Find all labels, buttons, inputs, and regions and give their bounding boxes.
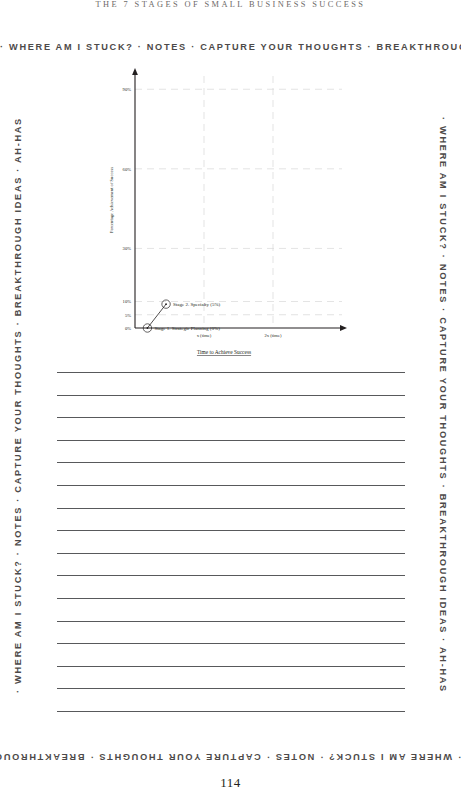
chart-svg: 90%60%30%10%5%0% x (time)2x (time) Stage… [104,66,354,361]
x-tick-label: x (time) [197,333,212,338]
y-tick-label: 0% [125,326,131,331]
data-point-label: Stage 2. Specialty (5%) [173,302,221,307]
y-axis-arrow [132,68,138,75]
writing-line[interactable] [57,462,405,463]
page-number: 114 [0,775,461,791]
x-axis-title: Time to Achieve Success [197,349,251,355]
notebook-page: THE 7 STAGES OF SMALL BUSINESS SUCCESS ·… [0,0,461,809]
writing-line[interactable] [57,575,405,576]
writing-line[interactable] [57,440,405,441]
x-tick-labels: x (time)2x (time) [197,333,282,338]
x-axis-arrow [340,325,347,331]
running-head: THE 7 STAGES OF SMALL BUSINESS SUCCESS [0,0,461,9]
y-tick-label: 90% [123,87,132,92]
y-tick-label: 60% [123,167,132,172]
margin-banner-right: · WHERE AM I STUCK? · NOTES · CAPTURE YO… [438,55,448,755]
writing-line[interactable] [57,666,405,667]
writing-line[interactable] [57,711,405,712]
writing-line[interactable] [57,372,405,373]
writing-line[interactable] [57,395,405,396]
success-chart: 90%60%30%10%5%0% x (time)2x (time) Stage… [104,66,354,361]
writing-line[interactable] [57,688,405,689]
writing-line[interactable] [57,621,405,622]
writing-line[interactable] [57,598,405,599]
writing-line[interactable] [57,485,405,486]
y-tick-label: 30% [123,246,132,251]
writing-line[interactable] [57,530,405,531]
writing-line[interactable] [57,508,405,509]
data-point-center [165,303,167,305]
y-tick-labels: 90%60%30%10%5%0% [123,87,132,331]
margin-banner-top: · WHERE AM I STUCK? · NOTES · CAPTURE YO… [0,42,461,52]
data-point-label: Stage 1. Strategic Planning (0%) [154,326,220,331]
writing-line[interactable] [57,643,405,644]
margin-banner-bottom: · WHERE AM I STUCK? · NOTES · CAPTURE YO… [0,752,461,762]
x-tick-label: 2x (time) [265,333,282,338]
y-axis-title: Percentage Achievement of Success [109,167,114,233]
y-tick-label: 5% [125,313,131,318]
ruled-writing-area[interactable] [57,372,405,734]
writing-line[interactable] [57,417,405,418]
data-point-center [147,327,149,329]
writing-line[interactable] [57,553,405,554]
chart-gridlines [135,76,342,328]
y-tick-label: 10% [123,299,132,304]
margin-banner-left: · WHERE AM I STUCK? · NOTES · CAPTURE YO… [13,55,23,755]
